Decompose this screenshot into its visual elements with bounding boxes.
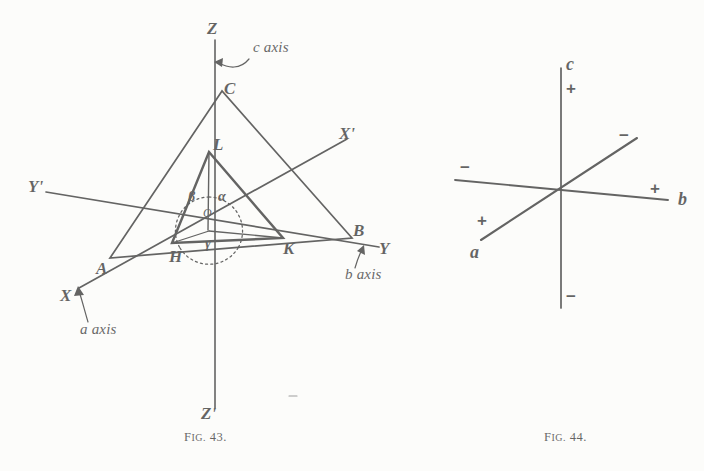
figure-44-caption: FIG. 44. <box>544 431 587 444</box>
fig44-a-axis-line <box>481 138 637 240</box>
fig44-label-c: c <box>566 55 574 73</box>
figure-44-caption-smallcaps: IG. <box>551 432 566 443</box>
fig44-sign-a-negative: − <box>619 127 629 144</box>
figure-44-drawing <box>0 0 704 471</box>
fig44-sign-a-positive: + <box>477 212 487 229</box>
fig44-sign-c-negative: − <box>566 288 576 305</box>
fig44-label-b: b <box>678 190 687 208</box>
fig44-sign-c-positive: + <box>566 80 576 97</box>
fig44-sign-b-negative: − <box>460 159 470 176</box>
scanned-page: Z c axis C L X' Y' β α O γ B Y b axis K … <box>0 0 704 471</box>
fig44-label-a: a <box>470 243 479 261</box>
fig44-sign-b-positive: + <box>650 180 660 197</box>
figure-44-caption-number: 44. <box>566 430 587 444</box>
